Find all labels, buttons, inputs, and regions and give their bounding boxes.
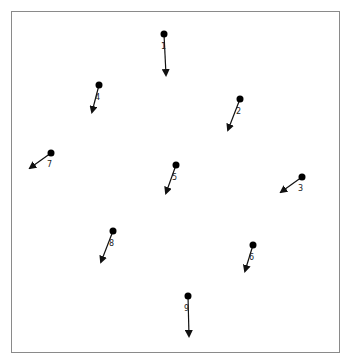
point-dot-icon xyxy=(237,96,244,103)
arrow-icon xyxy=(188,296,189,336)
vector-point-2: 2 xyxy=(228,96,244,131)
vector-point-5: 5 xyxy=(166,162,180,194)
vector-point-4: 4 xyxy=(92,82,103,113)
arrow-icon xyxy=(164,34,166,75)
point-dot-icon xyxy=(299,174,306,181)
vector-point-7: 7 xyxy=(30,150,55,170)
point-label: 7 xyxy=(47,160,52,169)
point-dot-icon xyxy=(110,228,117,235)
points-layer: 123456789 xyxy=(30,31,306,337)
point-dot-icon xyxy=(161,31,168,38)
vector-point-9: 9 xyxy=(184,293,192,337)
point-dot-icon xyxy=(48,150,55,157)
point-label: 9 xyxy=(184,304,189,313)
point-label: 5 xyxy=(172,173,177,182)
vector-point-1: 1 xyxy=(161,31,168,76)
point-dot-icon xyxy=(250,242,257,249)
point-label: 1 xyxy=(161,42,166,51)
point-label: 6 xyxy=(249,253,254,262)
point-dot-icon xyxy=(173,162,180,169)
vector-point-6: 6 xyxy=(245,242,257,272)
point-dot-icon xyxy=(96,82,103,89)
point-label: 2 xyxy=(236,107,241,116)
point-label: 8 xyxy=(109,239,114,248)
point-label: 3 xyxy=(298,184,303,193)
vector-field-canvas: 123456789 xyxy=(0,0,349,363)
point-label: 4 xyxy=(95,93,100,102)
vector-point-3: 3 xyxy=(281,174,306,194)
point-dot-icon xyxy=(185,293,192,300)
vector-point-8: 8 xyxy=(101,228,117,263)
